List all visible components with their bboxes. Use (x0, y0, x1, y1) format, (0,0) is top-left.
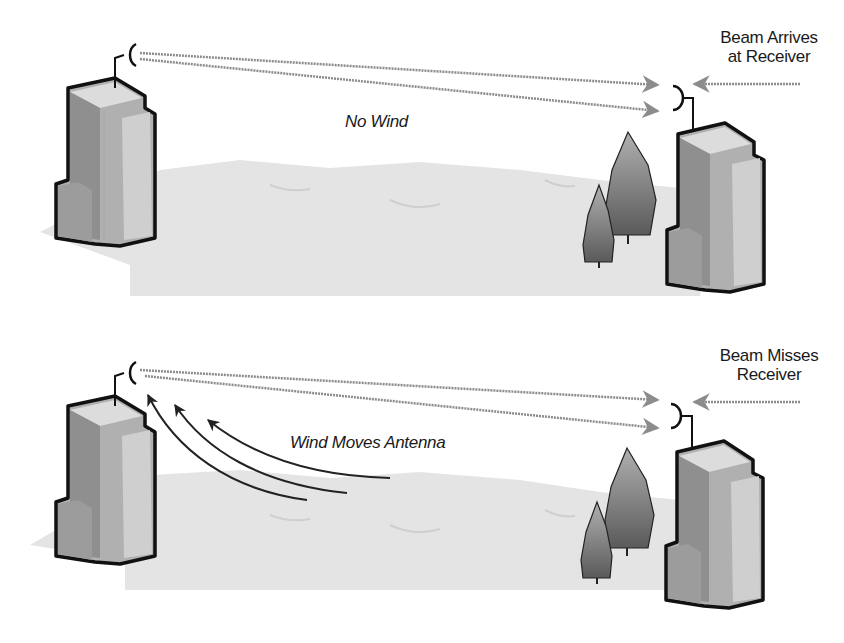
label-line-2: Receiver (704, 365, 834, 384)
receiver-building (666, 441, 763, 608)
label-line-1: Beam Arrives (704, 28, 834, 47)
beam-arrives-label: Beam Arrives at Receiver (704, 28, 834, 66)
receiver-building (667, 123, 764, 292)
label-line-1: Beam Misses (704, 346, 834, 365)
panel-no-wind (40, 44, 800, 296)
wind-caption: Wind Moves Antenna (290, 433, 445, 453)
beam-lines (140, 53, 800, 111)
diagram-canvas (0, 0, 844, 643)
beam-misses-label: Beam Misses Receiver (704, 346, 834, 384)
receiver-antenna (671, 404, 692, 455)
no-wind-caption: No Wind (345, 112, 408, 132)
panel-wind (30, 362, 800, 608)
label-line-2: at Receiver (704, 47, 834, 66)
transmitter-building (56, 78, 155, 246)
transmitter-building (56, 396, 155, 564)
beam-lines (140, 370, 800, 428)
